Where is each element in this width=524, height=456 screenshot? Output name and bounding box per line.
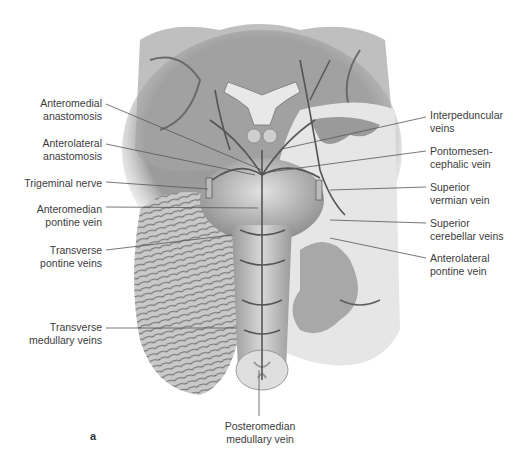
label-posteromedian-medullary-vein: Posteromedian medullary vein [204,420,316,446]
trigeminal-nerve-stub [206,178,212,198]
label-anteromedial-anastomosis: Anteromedial anastomosis [4,97,102,123]
label-transverse-medullary-veins: Transverse medullary veins [4,321,102,347]
label-interpeduncular-veins: Interpeduncular veins [430,109,503,135]
label-pontomesencephalic-vein: Pontomesen- cephalic vein [430,145,492,171]
label-transverse-pontine-veins: Transverse pontine veins [4,244,102,270]
label-anteromedian-pontine-vein: Anteromedian pontine vein [4,203,102,229]
panel-letter: a [90,430,96,442]
label-trigeminal-nerve: Trigeminal nerve [4,177,102,190]
label-anterolateral-pontine-vein: Anterolateral pontine vein [430,252,490,278]
brainstem-veins-figure: Anteromedial anastomosisAnterolateral an… [0,0,524,456]
label-superior-cerebellar-veins: Superior cerebellar veins [430,217,504,243]
label-superior-vermian-vein: Superior vermian vein [430,181,490,207]
label-anterolateral-anastomosis: Anterolateral anastomosis [4,137,102,163]
